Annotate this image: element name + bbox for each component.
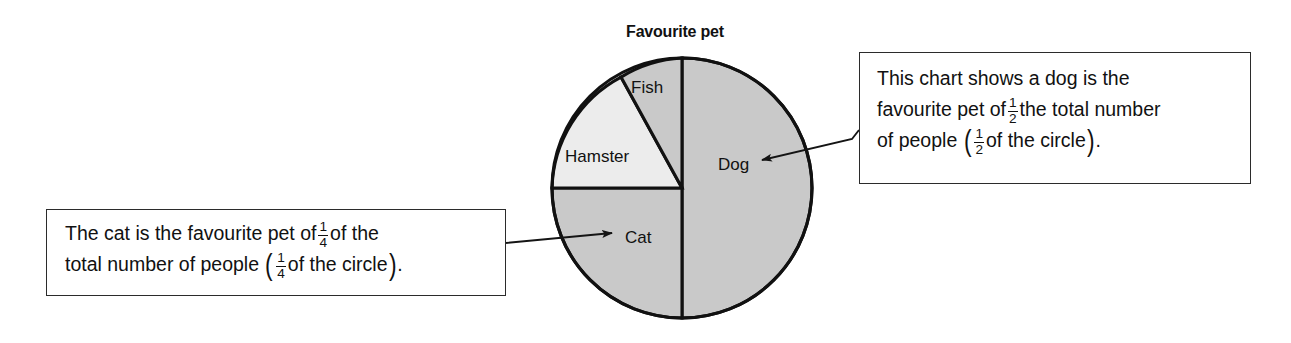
pie-label-fish: Fish [631, 78, 663, 98]
callout-box-cat: The cat is the favourite pet of14of the … [46, 209, 506, 296]
fraction-one-half-b: 12 [974, 127, 984, 157]
fraction-denominator: 2 [974, 142, 984, 157]
pie-label-dog: Dog [718, 155, 749, 175]
callout-left-line-1-text-a: The cat is the favourite pet of [65, 222, 316, 244]
callout-left-line-1-text-b: of the [330, 222, 379, 244]
pie-label-cat: Cat [625, 228, 651, 248]
callout-right-line-3: of people (12of the circle). [877, 125, 1250, 156]
callout-right-line-3-text-c: . [1095, 129, 1100, 151]
callout-right-line-1: This chart shows a dog is the [877, 63, 1250, 94]
callout-right-line-2-text-b: the total number [1020, 98, 1161, 120]
callout-left-line-2-text-c: . [397, 253, 402, 275]
fraction-one-quarter-b: 14 [276, 251, 286, 281]
callout-left-line-1: The cat is the favourite pet of14of the [65, 218, 505, 249]
chart-title: Favourite pet [565, 23, 785, 41]
callout-right-line-2: favourite pet of12the total number [877, 94, 1250, 125]
callout-box-dog: This chart shows a dog is the favourite … [859, 52, 1251, 184]
pie-slice-cat [552, 188, 682, 318]
callout-right-line-2-text-a: favourite pet of [877, 98, 1006, 120]
callout-left-line-2: total number of people (14of the circle)… [65, 249, 505, 280]
fraction-numerator: 1 [276, 251, 286, 265]
callout-left-line-2-text-b: of the circle [288, 253, 388, 275]
chart-figure: Favourite pet Fish Hamster Dog Cat This … [0, 0, 1291, 343]
pie-label-hamster: Hamster [565, 147, 629, 167]
callout-left-line-2-text-a: total number of people [65, 253, 259, 275]
pie-slice-dog [682, 58, 812, 318]
fraction-denominator: 4 [276, 266, 286, 281]
fraction-numerator: 1 [318, 220, 328, 234]
callout-right-line-3-text-b: of the circle [986, 129, 1086, 151]
fraction-numerator: 1 [1008, 96, 1018, 110]
fraction-one-quarter-a: 14 [318, 220, 328, 250]
fraction-denominator: 2 [1008, 111, 1018, 126]
fraction-denominator: 4 [318, 235, 328, 250]
callout-right-line-3-text-a: of people [877, 129, 957, 151]
fraction-one-half-a: 12 [1008, 96, 1018, 126]
fraction-numerator: 1 [974, 127, 984, 141]
